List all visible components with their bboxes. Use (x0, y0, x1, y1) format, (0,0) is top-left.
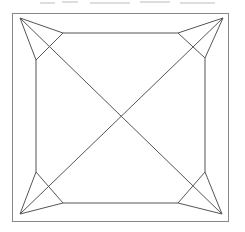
diagram-canvas (0, 0, 245, 232)
line-tl-to-left (20, 18, 36, 60)
line-bl-to-left (20, 172, 36, 214)
line-br-to-right (205, 172, 222, 214)
line-bl-to-bottom (20, 203, 63, 214)
clipped-text-fragments (40, 2, 215, 3)
line-tl-to-top (20, 18, 63, 33)
line-tr-to-right (205, 18, 223, 58)
line-br-to-bottom (178, 203, 222, 214)
diagonals (20, 18, 223, 214)
line-tr-to-top (178, 18, 223, 33)
